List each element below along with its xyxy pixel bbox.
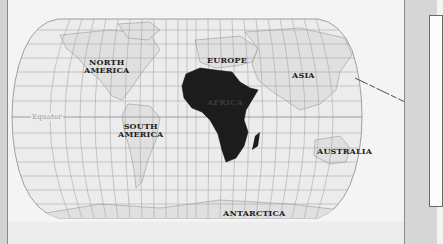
label-australia: AUSTRALIA [317,147,372,155]
label-equator: Equator [31,113,63,121]
label-asia: ASIA [292,71,315,79]
callout-box [429,15,443,207]
label-north-america: NORTH AMERICA [84,58,130,74]
label-africa: AFRICA [207,98,243,106]
label-europe: EUROPE [207,56,247,64]
label-antarctica: ANTARCTICA [223,209,286,217]
label-south-america: SOUTH AMERICA [118,122,164,138]
